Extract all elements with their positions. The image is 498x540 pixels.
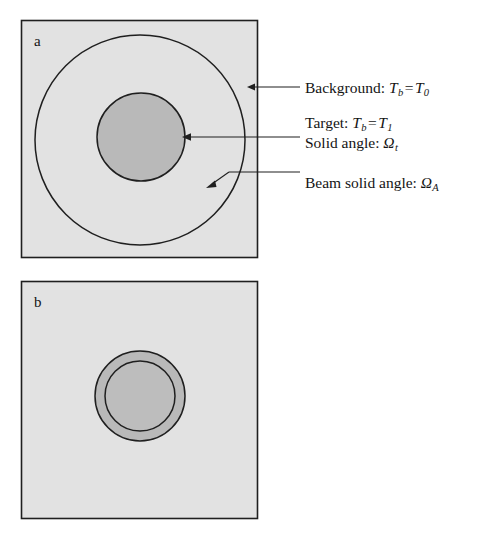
annotation-target-line1: Target: Tb=T1 — [305, 113, 398, 133]
target-value: T — [378, 114, 387, 131]
target-equals: = — [366, 114, 378, 131]
background-leader-arrow — [247, 83, 300, 90]
annotation-background-line: Background: Tb=T0 — [305, 78, 429, 98]
annotation-beam-line: Beam solid angle: ΩA — [305, 173, 439, 193]
beam-omega-symbol: Ω — [421, 174, 432, 191]
caption-sliver — [60, 531, 440, 540]
panel-a-target-disc — [97, 93, 185, 181]
panel-a: a — [22, 21, 258, 258]
omega-symbol: Ω — [383, 134, 394, 151]
beam-omega-sub: A — [432, 182, 439, 193]
panel-a-letter: a — [34, 33, 41, 49]
background-prefix: Background: — [305, 79, 385, 96]
panel-b-target-disc — [105, 361, 175, 431]
solid-angle-prefix: Solid angle: — [305, 134, 379, 151]
target-prefix: Target: — [305, 114, 348, 131]
omega-sub: t — [395, 142, 398, 153]
figure-root: a b — [0, 0, 498, 540]
background-value-sub: 0 — [424, 87, 430, 98]
background-value: T — [415, 79, 424, 96]
panel-b-letter: b — [34, 294, 42, 310]
background-equals: = — [403, 79, 415, 96]
beam-prefix: Beam solid angle: — [305, 174, 417, 191]
annotation-target-line2: Solid angle: Ωt — [305, 133, 398, 153]
target-value-sub: 1 — [387, 122, 393, 133]
background-symbol: T — [389, 79, 398, 96]
panel-b: b — [22, 282, 258, 519]
annotation-background: Background: Tb=T0 — [305, 78, 429, 98]
target-symbol: T — [352, 114, 361, 131]
annotation-beam: Beam solid angle: ΩA — [305, 173, 439, 193]
annotation-target: Target: Tb=T1 Solid angle: Ωt — [305, 113, 398, 153]
